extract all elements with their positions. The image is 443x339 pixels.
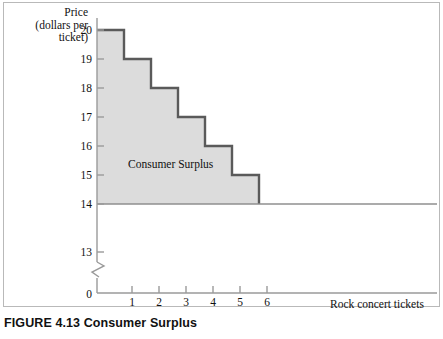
figure-number: FIGURE 4.13 [4,316,80,330]
surplus-region [97,30,259,204]
figure-container: Price (dollars per ticket) Rock concert … [0,0,443,339]
figure-title: Consumer Surplus [84,316,197,330]
figure-caption: FIGURE 4.13 Consumer Surplus [4,316,440,330]
x-axis-ticks [132,286,267,293]
axis-break-icon [92,262,104,277]
consumer-surplus-label: Consumer Surplus [128,158,213,170]
plot-area [0,0,443,310]
